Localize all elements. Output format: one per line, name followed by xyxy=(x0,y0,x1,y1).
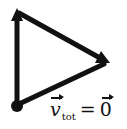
equals-sign: = xyxy=(80,98,96,120)
subscript-tot: tot xyxy=(62,111,76,122)
origin-dot xyxy=(11,100,23,112)
top-edge xyxy=(19,13,100,58)
zero-vector: 0 xyxy=(100,100,112,119)
vector-symbol: v xyxy=(50,98,61,120)
vector-equation: vtot=0 xyxy=(50,100,112,122)
velocity-vector: v xyxy=(50,100,61,119)
